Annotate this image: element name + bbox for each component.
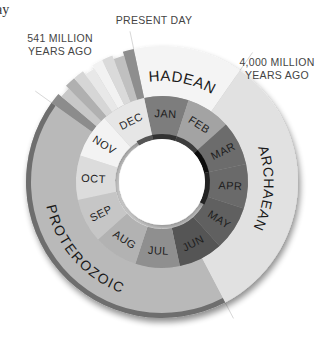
month-label-jan: JAN [154, 107, 177, 120]
donut-hole [119, 139, 205, 225]
annotation-0-mya: PRESENT DAY [104, 14, 204, 27]
leader-line [35, 91, 53, 104]
annotation-4000-mya: 4,000 MILLIONYEARS AGO [232, 56, 322, 82]
annotation-541-mya: 541 MILLIONYEARS AGO [20, 32, 100, 58]
earth-calendar-chart: ay JANFEBMARAPRMAYJUNJULAUGSEPOCTNOVDECH… [0, 0, 323, 338]
leader-line [130, 31, 134, 51]
month-label-jul: JUL [148, 244, 170, 257]
leader-line [224, 301, 233, 319]
month-label-apr: APR [218, 179, 243, 192]
donut-disc [26, 46, 298, 318]
cropped-caption-fragment: ay [0, 2, 9, 18]
month-label-oct: OCT [81, 172, 106, 185]
